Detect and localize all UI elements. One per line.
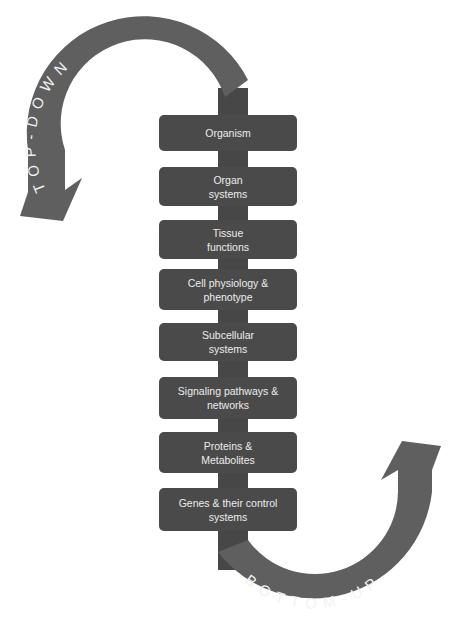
level-label: Tissue [213,226,244,240]
level-label: Cell physiology & [188,276,269,290]
level-label: functions [207,240,249,254]
level-label: Proteins & [204,439,252,453]
level-label: systems [209,510,248,524]
level-label: Signaling pathways & [178,384,278,398]
level-label: Organism [205,126,251,140]
level-organism: Organism [159,115,297,151]
level-signaling-pathways: Signaling pathways & networks [159,377,297,419]
level-label: Subcellular [202,328,254,342]
level-label: Metabolites [201,453,255,467]
level-organ-systems: Organ systems [159,167,297,206]
level-proteins-metabolites: Proteins & Metabolites [159,432,297,473]
level-label: phenotype [203,290,252,304]
level-label: systems [209,187,248,201]
level-subcellular-systems: Subcellular systems [159,323,297,361]
level-label: Organ [213,173,242,187]
level-genes-control-systems: Genes & their control systems [159,488,297,531]
level-label: Genes & their control [179,496,278,510]
level-cell-physiology: Cell physiology & phenotype [159,269,297,310]
level-label: networks [207,398,249,412]
level-tissue-functions: Tissue functions [159,220,297,259]
levels-diagram: TOP-DOWN BOTTOM-UP Organism Organ system… [0,0,464,639]
level-label: systems [209,342,248,356]
